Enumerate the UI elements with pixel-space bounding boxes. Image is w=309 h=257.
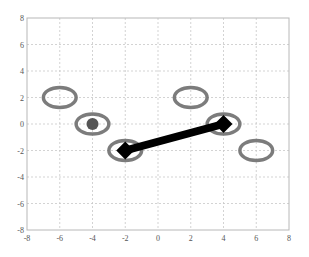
y-tick-label: 8 bbox=[20, 14, 24, 23]
x-tick-label: 4 bbox=[222, 234, 226, 243]
y-tick-label: 0 bbox=[20, 120, 24, 129]
y-axis-ticks: 86420-2-4-6-8 bbox=[17, 14, 24, 235]
x-tick-label: -2 bbox=[122, 234, 129, 243]
y-tick-label: -2 bbox=[17, 147, 24, 156]
thick-line bbox=[125, 124, 223, 151]
y-tick-label: -8 bbox=[17, 226, 24, 235]
x-tick-label: -8 bbox=[24, 234, 31, 243]
diamond-marker-icon bbox=[116, 142, 134, 160]
filled-circle-icon bbox=[87, 118, 99, 130]
y-tick-label: -4 bbox=[17, 173, 24, 182]
connector-line bbox=[116, 115, 232, 160]
y-tick-label: -6 bbox=[17, 200, 24, 209]
y-tick-label: 6 bbox=[20, 41, 24, 50]
diamond-marker-icon bbox=[215, 115, 233, 133]
x-tick-label: 2 bbox=[189, 234, 193, 243]
x-tick-label: -4 bbox=[89, 234, 96, 243]
x-tick-label: 6 bbox=[254, 234, 258, 243]
y-tick-label: 2 bbox=[20, 94, 24, 103]
filled-dot-markers bbox=[87, 118, 99, 130]
y-tick-label: 4 bbox=[20, 67, 24, 76]
x-tick-label: 0 bbox=[156, 234, 160, 243]
x-axis-ticks: -8-6-4-202468 bbox=[24, 234, 291, 243]
x-tick-label: -6 bbox=[56, 234, 63, 243]
grid-lines bbox=[27, 18, 289, 230]
chart: -8-6-4-202468 86420-2-4-6-8 bbox=[0, 0, 309, 257]
x-tick-label: 8 bbox=[287, 234, 291, 243]
